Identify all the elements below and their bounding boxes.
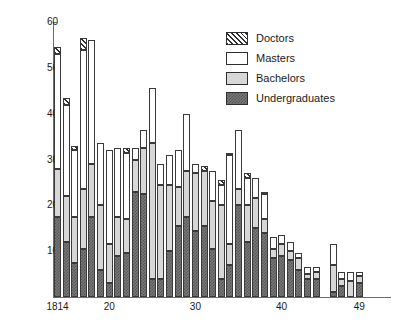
bar-segment-bachelors [140,148,147,194]
bar-segment-masters [192,164,199,173]
bar-segment-bachelors [132,160,139,192]
bar-segment-undergraduates [295,270,302,298]
bar-segment-undergraduates [97,270,104,298]
bar-segment-bachelors [106,244,113,283]
legend-swatch-doctors [226,32,248,45]
bar-1828 [175,150,182,297]
x-tick-label: 49 [354,301,365,313]
bar-segment-bachelors [304,274,311,279]
bar-segment-doctors [71,146,78,151]
bar-segment-doctors [63,98,70,105]
bar-segment-undergraduates [278,256,285,297]
bar-segment-bachelors [123,219,130,253]
bar-1825 [149,88,156,297]
bar-segment-undergraduates [132,192,139,297]
bar-segment-masters [123,153,130,219]
bar-1837 [252,178,259,297]
bar-segment-bachelors [287,251,294,260]
bar-segment-masters [97,143,104,205]
bar-segment-masters [244,178,251,206]
bar-segment-undergraduates [330,292,337,297]
bar-segment-masters [88,40,95,164]
bar-segment-masters [330,244,337,265]
bar-segment-bachelors [175,187,182,226]
bar-segment-undergraduates [201,226,208,297]
bar-segment-masters [347,272,354,281]
bar-segment-undergraduates [261,233,268,297]
bar-1822 [123,148,130,297]
bar-segment-bachelors [252,198,259,228]
bar-segment-doctors [218,180,225,185]
bar-segment-undergraduates [157,279,164,297]
bar-segment-bachelors [88,164,95,217]
bar-segment-bachelors [209,201,216,249]
legend-swatch-bachelors [226,72,248,85]
legend-item-masters: Masters [226,50,376,68]
bar-1840 [278,235,285,297]
bar-segment-masters [252,178,259,199]
bar-1815 [63,98,70,297]
legend-swatch-undergraduates [226,92,248,105]
bar-segment-bachelors [338,279,345,286]
bar-segment-bachelors [235,189,242,205]
bar-segment-bachelors [261,219,268,233]
bar-segment-masters [338,272,345,279]
bar-segment-undergraduates [140,194,147,297]
bar-segment-doctors [226,153,233,155]
bar-segment-bachelors [114,217,121,256]
bar-segment-masters [209,171,216,201]
bar-segment-undergraduates [192,231,199,297]
bar-segment-undergraduates [149,279,156,297]
bar-segment-masters [114,148,121,217]
bar-segment-masters [157,164,164,185]
bar-1835 [235,130,242,297]
legend-label-masters: Masters [256,51,295,66]
bar-segment-bachelors [218,205,225,278]
bar-1818 [88,40,95,297]
bar-1831 [201,166,208,297]
bar-1833 [218,180,225,297]
bar-segment-bachelors [97,205,104,269]
bar-segment-undergraduates [287,260,294,297]
bar-segment-undergraduates [54,217,61,297]
bar-1827 [166,155,173,297]
bar-segment-masters [235,130,242,190]
bar-segment-bachelors [149,143,156,278]
bar-segment-bachelors [192,173,199,230]
bar-segment-undergraduates [114,256,121,297]
bar-segment-masters [226,155,233,244]
bar-segment-doctors [123,148,130,153]
bar-1834 [226,153,233,297]
x-tick-label: 1814 [46,301,68,313]
bar-1823 [132,148,139,297]
bar-segment-bachelors [166,185,173,251]
bar-segment-doctors [201,166,208,171]
bar-1844 [313,267,320,297]
bar-segment-undergraduates [123,253,130,297]
bar-segment-bachelors [54,169,61,217]
bar-segment-bachelors [183,171,190,217]
bar-segment-undergraduates [226,265,233,297]
bar-1820 [106,150,113,297]
bar-segment-masters [270,237,277,248]
legend-item-undergraduates: Undergraduates [226,90,376,108]
legend-item-doctors: Doctors [226,30,376,48]
bar-1846 [330,244,337,297]
bar-segment-bachelors [278,244,285,255]
bar-1849 [356,272,363,297]
bar-segment-undergraduates [183,217,190,297]
bar-1841 [287,242,294,297]
legend-item-bachelors: Bachelors [226,70,376,88]
bar-1848 [347,272,354,297]
bar-1842 [295,253,302,297]
bar-segment-masters [149,88,156,143]
bar-1821 [114,148,121,297]
bar-segment-undergraduates [356,283,363,297]
bar-segment-masters [132,148,139,159]
bar-segment-undergraduates [71,263,78,297]
bar-segment-bachelors [313,272,320,279]
bar-segment-masters [295,253,302,258]
bar-segment-bachelors [71,217,78,263]
bar-segment-undergraduates [218,279,225,297]
bar-segment-bachelors [201,171,208,226]
